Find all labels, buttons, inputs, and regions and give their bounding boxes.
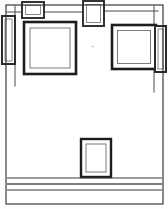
line-drawing-canvas xyxy=(0,0,168,209)
panel-top-small-left xyxy=(22,2,44,18)
panel-large-left-inner-frame xyxy=(30,28,70,68)
panel-right-edge-tall-inner-frame xyxy=(158,29,163,69)
panel-right-edge-tall xyxy=(155,26,166,72)
panel-top-small-left-inner-frame xyxy=(26,6,41,15)
panel-top-small-center-inner-frame xyxy=(87,5,101,23)
drawing-svg xyxy=(0,0,168,209)
panel-large-right-inner-frame xyxy=(118,31,151,64)
screenshot-root: • xyxy=(0,0,168,209)
panel-left-edge-tall xyxy=(2,16,15,64)
panel-bottom-center xyxy=(81,139,111,177)
panel-bottom-center-inner-frame xyxy=(86,144,106,172)
center-annotation-tick: • xyxy=(92,45,93,49)
panel-large-left xyxy=(24,22,76,74)
panel-large-right xyxy=(112,25,156,69)
